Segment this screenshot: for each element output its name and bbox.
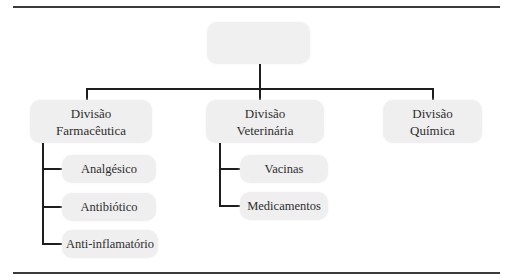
child-node-medicamentos: Medicamentos (240, 192, 328, 220)
connector-drop-farmaceutica (86, 88, 88, 100)
connector-antibiotico (42, 206, 62, 208)
division-farmaceutica-label: Divisão Farmacêutica (56, 105, 126, 139)
bottom-rule (13, 272, 500, 274)
child-node-anti-inflamatorio: Anti-inflamatório (62, 230, 158, 258)
connector-farmaceutica-spine (42, 143, 44, 244)
division-veterinaria-node: Divisão Veterinária (206, 100, 324, 143)
child-node-vacinas: Vacinas (240, 155, 328, 183)
connector-medicamentos (219, 205, 240, 207)
child-label-anti-inflamatorio: Anti-inflamatório (66, 236, 154, 253)
connector-root-vertical (259, 64, 261, 90)
connector-analgesico (42, 168, 62, 170)
child-node-antibiotico: Antibiótico (62, 193, 156, 221)
child-label-medicamentos: Medicamentos (247, 198, 321, 215)
connector-drop-quimica (432, 88, 434, 100)
connector-veterinaria-spine (219, 143, 221, 207)
connector-anti-inflamatorio (42, 243, 62, 245)
root-node (207, 22, 310, 64)
division-veterinaria-label: Divisão Veterinária (236, 105, 293, 139)
division-quimica-node: Divisão Química (383, 100, 482, 143)
connector-vacinas (219, 168, 240, 170)
child-label-analgesico: Analgésico (81, 161, 137, 178)
child-label-vacinas: Vacinas (265, 161, 304, 178)
division-quimica-label: Divisão Química (410, 105, 455, 139)
child-node-analgesico: Analgésico (62, 155, 156, 183)
child-label-antibiotico: Antibiótico (81, 199, 138, 216)
top-rule (13, 6, 500, 8)
division-farmaceutica-node: Divisão Farmacêutica (30, 100, 152, 143)
connector-drop-veterinaria (259, 88, 261, 100)
